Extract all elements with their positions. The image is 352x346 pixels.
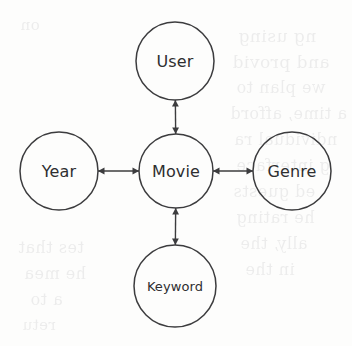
entity-graph: UserYearMovieGenreKeyword [0, 0, 352, 346]
node-label: Keyword [147, 279, 203, 294]
node-layer: UserYearMovieGenreKeyword [20, 22, 331, 327]
edge-movie-year [98, 168, 139, 175]
node-genre[interactable]: Genre [253, 132, 331, 210]
node-user[interactable]: User [136, 22, 214, 100]
edge-movie-user [172, 100, 179, 134]
node-label: Genre [268, 162, 317, 181]
node-movie[interactable]: Movie [139, 134, 213, 208]
node-label: Year [41, 162, 77, 181]
arrowhead-icon [172, 100, 179, 107]
node-keyword[interactable]: Keyword [134, 245, 216, 327]
node-year[interactable]: Year [20, 132, 98, 210]
node-label: Movie [152, 162, 200, 181]
edge-movie-genre [213, 168, 253, 175]
arrowhead-icon [133, 168, 140, 175]
arrowhead-icon [172, 238, 179, 245]
diagram-canvas: ng usingand providwe plan toa time, affo… [0, 0, 352, 346]
arrowhead-icon [172, 127, 179, 134]
node-label: User [157, 52, 194, 71]
arrowhead-icon [98, 168, 105, 175]
arrowhead-icon [172, 208, 179, 215]
edge-movie-keyword [172, 208, 179, 245]
arrowhead-icon [213, 168, 220, 175]
arrowhead-icon [247, 168, 254, 175]
